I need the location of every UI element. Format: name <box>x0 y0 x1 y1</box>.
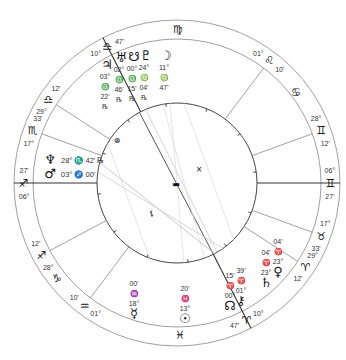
cusp-3-degree: 01° <box>90 310 101 317</box>
mars-icon: ♂ <box>44 166 56 181</box>
cusp-4-sign-icon: ♈ <box>242 314 252 327</box>
saturn-sign: ♈ <box>262 258 271 267</box>
neptune-icon: ♆ <box>44 152 56 167</box>
north-node-icon: ☊ <box>224 298 236 313</box>
sun-min: 20' <box>180 285 189 292</box>
chiron-sign: ♈ <box>237 276 246 285</box>
cusp-8-line <box>252 134 312 156</box>
aspect-lines <box>98 103 234 262</box>
cusp-6-degree: 17° <box>320 220 331 227</box>
venus-deg: 23° <box>273 258 284 265</box>
sun-sign: ♓ <box>181 294 190 303</box>
cusp-5-degree: 29° <box>307 252 318 259</box>
cusp-12-degree: 17° <box>23 140 34 147</box>
cusp-5-minutes: 12' <box>293 275 302 282</box>
north-node-min: 15' <box>225 272 234 279</box>
south-node-icon: ☋ <box>128 49 140 64</box>
cusp-11-minutes: 12' <box>51 85 60 92</box>
chiron-min: 39' <box>236 267 245 274</box>
inner-tick <box>103 153 106 154</box>
dsc-cusp-minutes: 27' <box>325 193 334 200</box>
cusp-5-line <box>244 227 298 262</box>
pluto-deg: 24° <box>139 64 150 71</box>
cusp-6-line <box>252 210 312 232</box>
south-node-min: 15' <box>127 85 136 92</box>
moon-deg: 11° <box>159 64 169 71</box>
jupiter-icon: ♃ <box>101 57 113 72</box>
north-node-deg: 00° <box>225 292 236 299</box>
asc-cusp-degree: 06° <box>19 193 30 200</box>
mercury-icon: ☿ <box>130 306 138 321</box>
aspect-line <box>163 104 204 258</box>
cusp-2-sign-icon: ♐ <box>37 249 47 262</box>
cusp-8-minutes: 12' <box>321 140 330 147</box>
mars-position: 03° ♐ 00' <box>61 170 96 179</box>
jupiter-deg: 03° <box>100 73 111 80</box>
chiron-deg: 01° <box>236 287 247 294</box>
inner-tick <box>238 134 240 136</box>
inner-tick <box>248 212 251 213</box>
cusp-2-degree: 28° <box>43 264 54 271</box>
lilith-marker-icon: ⚸ <box>149 209 155 218</box>
saturn-min: 04' <box>261 249 270 256</box>
cusp-2-minutes: 12' <box>31 240 40 247</box>
south-node-deg: 00° <box>127 65 138 72</box>
inner-tick <box>206 109 207 112</box>
inner-tick <box>128 120 130 122</box>
uranus-deg: 02° <box>114 66 125 73</box>
cusp-4-minutes: 47' <box>230 322 239 329</box>
cusp-6-sign-icon: ♉ <box>316 230 326 243</box>
mc-cusp-minutes: 47' <box>115 38 124 45</box>
pisces-sign-icon: ♓ <box>175 329 185 342</box>
mc-cusp-sign-icon: ♎ <box>102 40 112 53</box>
cusp-12-minutes: 33' <box>33 115 42 122</box>
cusp-8-sign-icon: ♊ <box>316 124 326 137</box>
inner-tick <box>147 254 148 257</box>
fortuna-marker-icon: ⊗ <box>114 136 121 145</box>
pluto-min: 04' <box>139 84 148 91</box>
north-node-sign: ♈ <box>226 281 235 290</box>
venus-sign: ♈ <box>274 247 283 256</box>
moon-min: 47' <box>159 84 168 91</box>
cusp-2-line <box>50 221 107 251</box>
jupiter-sign: ♎ <box>101 82 110 91</box>
vertex-marker-icon: × <box>196 165 203 174</box>
south-node-sign: ♎ <box>128 74 137 83</box>
saturn-deg: 23° <box>261 269 272 276</box>
cusp-3-sign-icon: ♒ <box>80 300 90 313</box>
aspect-line <box>98 172 223 249</box>
uranus-retro: ℞ <box>116 96 122 103</box>
dsc-cusp-degree: 06° <box>325 167 336 174</box>
capricorn-sign-icon: ♑ <box>52 272 62 285</box>
cancer-sign-icon: ♋ <box>291 86 301 99</box>
jupiter-min: 22' <box>100 93 109 100</box>
neptune-position: 28° ♏ 42' ℞ <box>61 156 104 165</box>
mercury-deg: 18° <box>129 300 140 307</box>
cusp-9-degree: 01° <box>253 50 264 57</box>
uranus-min: 46' <box>114 86 123 93</box>
sun-deg: 13° <box>180 305 191 312</box>
uranus-icon: ♅ <box>115 50 127 65</box>
virgo-sign-icon: ♍ <box>173 23 183 36</box>
aspect-line <box>184 103 234 239</box>
uranus-sign: ♎ <box>115 75 124 84</box>
cusp-5-sign-icon: ♈ <box>301 261 311 274</box>
aspect-line <box>108 143 150 258</box>
cusp-3-minutes: 10' <box>70 294 79 301</box>
pluto-retro: ℞ <box>141 94 147 101</box>
cusp-8-degree: 28° <box>311 115 322 122</box>
asc-cusp-sign-icon: ♐ <box>19 177 29 190</box>
dsc-cusp-sign-icon: ♊ <box>326 177 336 190</box>
cusp-6-minutes: 33' <box>312 245 321 252</box>
chiron-icon: ⚷ <box>236 293 246 308</box>
moon-icon: ☽ <box>160 48 172 63</box>
cusp-9-minutes: 10' <box>275 66 284 73</box>
cusp-11-sign-icon: ♎ <box>43 93 53 106</box>
cusp-12-sign-icon: ♏ <box>28 124 38 137</box>
cusp-11-degree: 29° <box>36 108 47 115</box>
cusp-9-sign-icon: ♌ <box>264 54 274 67</box>
pluto-sign: ♍ <box>140 73 149 82</box>
mc-cusp-degree: 10° <box>90 50 101 57</box>
jupiter-retro: ℞ <box>102 103 108 110</box>
natal-chart-wheel: ♐06°27'♐28°12'♒01°10'♈10°47'♈29°12'♉17°3… <box>0 0 346 360</box>
